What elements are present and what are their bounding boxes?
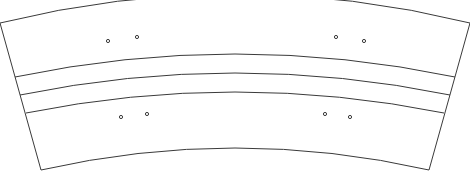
outer-arc bbox=[0, 0, 470, 23]
left-edge bbox=[0, 23, 41, 170]
hole-6 bbox=[145, 112, 148, 115]
divider-arc-1 bbox=[15, 54, 455, 77]
hole-5 bbox=[119, 115, 122, 118]
hole-4 bbox=[362, 39, 365, 42]
curved-band-diagram bbox=[0, 0, 470, 171]
inner-arc bbox=[41, 148, 429, 170]
hole-7 bbox=[323, 112, 326, 115]
hole-3 bbox=[334, 35, 337, 38]
divider-arc-3 bbox=[26, 92, 444, 113]
hole-1 bbox=[106, 39, 109, 42]
band-outline bbox=[0, 0, 470, 170]
hole-2 bbox=[135, 35, 138, 38]
hole-8 bbox=[348, 115, 351, 118]
right-edge bbox=[429, 23, 470, 170]
